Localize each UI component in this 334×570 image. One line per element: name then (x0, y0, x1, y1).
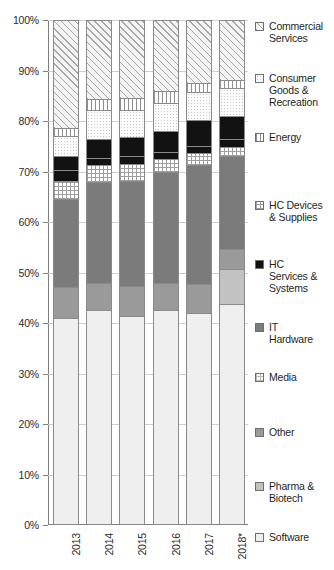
bar-segment-hcservices2[interactable] (119, 137, 145, 157)
bar-segment-hcservices2[interactable] (186, 120, 212, 146)
bar-segment-hcservices2[interactable] (219, 116, 245, 139)
bar-segment-ithardware[interactable] (186, 165, 212, 284)
bar-2013[interactable] (53, 20, 79, 525)
bar-segment-hcdevices[interactable] (119, 164, 145, 180)
legend-swatch-consumer-icon (255, 74, 264, 83)
legend-item-commercial[interactable]: Commercial Services (255, 20, 323, 44)
y-axis-tick-label: 100% (13, 14, 39, 26)
bar-segment-pharma[interactable] (219, 269, 245, 303)
bar-segment-hcservices[interactable] (86, 158, 112, 166)
bar-2014[interactable] (86, 20, 112, 525)
legend-label-hcdevices: HC Devices & Supplies (269, 199, 322, 223)
bar-segment-ithardware[interactable] (53, 199, 79, 286)
bar-segment-commercial[interactable] (219, 20, 245, 80)
legend-item-other[interactable]: Other (255, 426, 294, 438)
legend-label-other: Other (269, 426, 294, 438)
legend-swatch-other-icon (255, 428, 264, 437)
bar-segment-ithardware[interactable] (219, 156, 245, 249)
bar-segment-hcdevices[interactable] (186, 153, 212, 165)
bar-segment-energy[interactable] (119, 98, 145, 110)
legend-item-hcservices[interactable]: HC Services & Systems (255, 258, 317, 295)
bar-2016[interactable] (153, 20, 179, 525)
bar-segment-ithardware[interactable] (86, 182, 112, 283)
bar-segment-consumer[interactable] (119, 110, 145, 136)
bar-segment-consumer[interactable] (153, 103, 179, 130)
bar-segment-hcservices[interactable] (186, 146, 212, 153)
bar-segment-hcservices2[interactable] (53, 156, 79, 170)
y-axis: 0%10%20%30%40%50%60%70%80%90%100% (0, 0, 46, 545)
y-axis-tick-label: 70% (19, 166, 39, 178)
bar-2015[interactable] (119, 20, 145, 525)
bar-segment-energy[interactable] (153, 91, 179, 103)
bar-segment-hcservices[interactable] (153, 152, 179, 159)
bar-segment-commercial[interactable] (153, 20, 179, 91)
legend-swatch-ithardware-icon (255, 323, 264, 332)
legend-item-consumer[interactable]: Consumer Goods & Recreation (255, 72, 318, 109)
bar-segment-consumer[interactable] (219, 88, 245, 116)
legend-label-energy: Energy (269, 131, 301, 143)
bar-segment-software[interactable] (153, 310, 179, 525)
bar-segment-energy[interactable] (186, 83, 212, 92)
bar-segment-ithardware[interactable] (153, 172, 179, 283)
bar-segment-commercial[interactable] (86, 20, 112, 99)
bar-segment-software[interactable] (119, 316, 145, 525)
y-axis-tick-label: 50% (19, 267, 39, 279)
bar-segment-hcdevices[interactable] (153, 159, 179, 171)
legend-label-pharma: Pharma & Biotech (269, 480, 314, 504)
bar-segment-other[interactable] (219, 249, 245, 269)
bar-2018[interactable] (219, 20, 245, 525)
bar-segment-commercial[interactable] (186, 20, 212, 83)
bar-segment-consumer[interactable] (186, 92, 212, 120)
legend-item-hcdevices[interactable]: HC Devices & Supplies (255, 199, 322, 223)
bar-segment-hcservices2[interactable] (86, 139, 112, 158)
bar-segment-other[interactable] (153, 283, 179, 311)
legend-swatch-pharma-icon (255, 482, 264, 491)
y-axis-tick-label: 20% (19, 418, 39, 430)
bar-segment-energy[interactable] (219, 80, 245, 89)
bar-segment-energy[interactable] (53, 128, 79, 136)
legend-item-energy[interactable]: Energy (255, 131, 301, 143)
legend-item-pharma[interactable]: Pharma & Biotech (255, 480, 314, 504)
bar-segment-hcservices[interactable] (53, 170, 79, 181)
y-axis-tick-label: 10% (19, 469, 39, 481)
bar-segment-hcservices[interactable] (119, 156, 145, 164)
bar-segment-hcservices2[interactable] (153, 131, 179, 153)
legend-label-consumer: Consumer Goods & Recreation (269, 72, 318, 109)
bar-segment-software[interactable] (86, 310, 112, 525)
bar-segment-commercial[interactable] (53, 20, 79, 128)
legend-label-media: Media (269, 371, 297, 383)
x-axis: 201320142015201620172018* (48, 529, 248, 570)
bar-segment-other[interactable] (53, 287, 79, 318)
bar-segment-hcservices[interactable] (219, 139, 245, 147)
legend-item-ithardware[interactable]: IT Hardware (255, 321, 313, 345)
legend-swatch-media-icon (255, 373, 264, 382)
bar-segment-hcdevices[interactable] (86, 165, 112, 181)
bar-segment-other[interactable] (119, 286, 145, 316)
y-axis-tick-label: 60% (19, 216, 39, 228)
bar-segment-commercial[interactable] (119, 20, 145, 98)
bar-segment-software[interactable] (53, 318, 79, 525)
bar-segment-other[interactable] (186, 284, 212, 314)
y-axis-tick-label: 40% (19, 317, 39, 329)
legend-swatch-software-icon (255, 533, 264, 542)
bar-segment-ithardware[interactable] (119, 181, 145, 286)
legend-item-media[interactable]: Media (255, 371, 297, 383)
y-axis-tick-label: 80% (19, 115, 39, 127)
legend-label-commercial: Commercial Services (269, 20, 323, 44)
legend-item-software[interactable]: Software (255, 531, 309, 543)
plot-area (48, 20, 248, 525)
y-axis-tick-label: 90% (19, 65, 39, 77)
bar-segment-software[interactable] (219, 304, 245, 525)
bar-segment-consumer[interactable] (86, 110, 112, 138)
bar-segment-consumer[interactable] (53, 136, 79, 157)
bar-segment-software[interactable] (186, 313, 212, 525)
bar-2017[interactable] (186, 20, 212, 525)
bar-segment-hcdevices[interactable] (219, 147, 245, 157)
bar-segment-hcdevices[interactable] (53, 181, 79, 200)
bar-segment-energy[interactable] (86, 99, 112, 110)
x-axis-tick-label: 2015 (136, 533, 148, 556)
legend-label-software: Software (269, 531, 309, 543)
bar-segment-other[interactable] (86, 283, 112, 310)
x-axis-tick-label: 2016 (170, 533, 182, 556)
legend-swatch-commercial-icon (255, 22, 264, 31)
